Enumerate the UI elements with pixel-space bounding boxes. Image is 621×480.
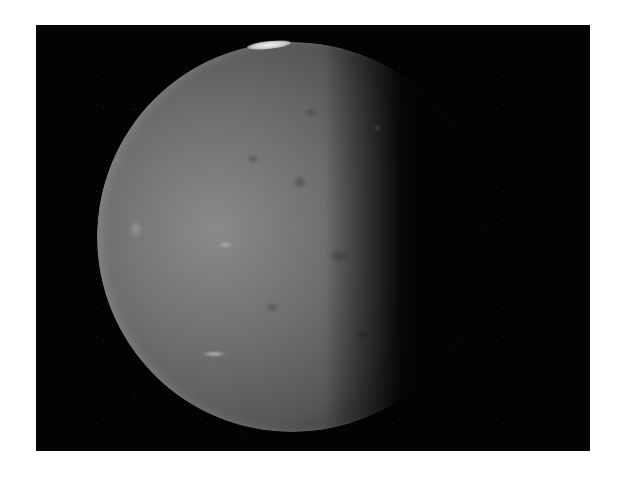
moon-disk [97,42,487,432]
terminator-shadow [97,42,487,432]
space-photo-frame [36,25,590,451]
